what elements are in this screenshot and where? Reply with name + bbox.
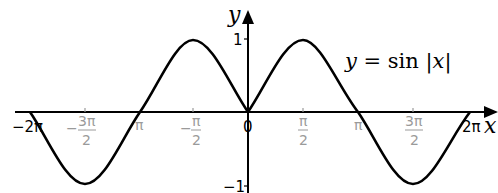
svg-text:−: − <box>66 120 78 136</box>
svg-text:3π: 3π <box>78 113 96 129</box>
x-tick-label-neg-2pi: −2π <box>12 118 43 136</box>
x-tick-label-neg-pi-over-2: − π 2 <box>180 113 201 148</box>
x-tick-label-zero: 0 <box>243 118 253 136</box>
y-axis-label: y <box>227 2 241 27</box>
x-tick-label-3pi-over-2: 3π 2 <box>405 113 423 148</box>
x-tick-label-2pi: 2π <box>462 118 481 136</box>
y-tick-label-1: 1 <box>233 31 243 49</box>
svg-text:3π: 3π <box>405 113 423 129</box>
y-axis-arrow-icon <box>242 10 254 24</box>
x-axis-label: x <box>484 113 497 138</box>
sine-abs-chart: y x 1 −1 −2π − 3π 2 π − π 2 0 π 2 π 3π 2… <box>0 0 498 193</box>
svg-text:π: π <box>192 113 201 129</box>
svg-text:2: 2 <box>299 132 308 148</box>
x-tick-label-pi: π <box>354 117 363 133</box>
svg-text:−: − <box>180 120 192 136</box>
curve-equation-label: y = sin |x| <box>344 49 452 74</box>
x-tick-label-neg-3pi-over-2: − 3π 2 <box>66 113 96 148</box>
svg-text:π: π <box>299 113 308 129</box>
svg-text:2: 2 <box>192 132 201 148</box>
svg-text:2: 2 <box>82 132 91 148</box>
x-tick-label-pi-over-2: π 2 <box>298 113 308 148</box>
y-axis <box>242 10 254 193</box>
x-tick-label-neg-pi: π <box>135 117 144 133</box>
y-tick-label-neg1: −1 <box>223 178 245 193</box>
svg-text:2: 2 <box>410 132 419 148</box>
